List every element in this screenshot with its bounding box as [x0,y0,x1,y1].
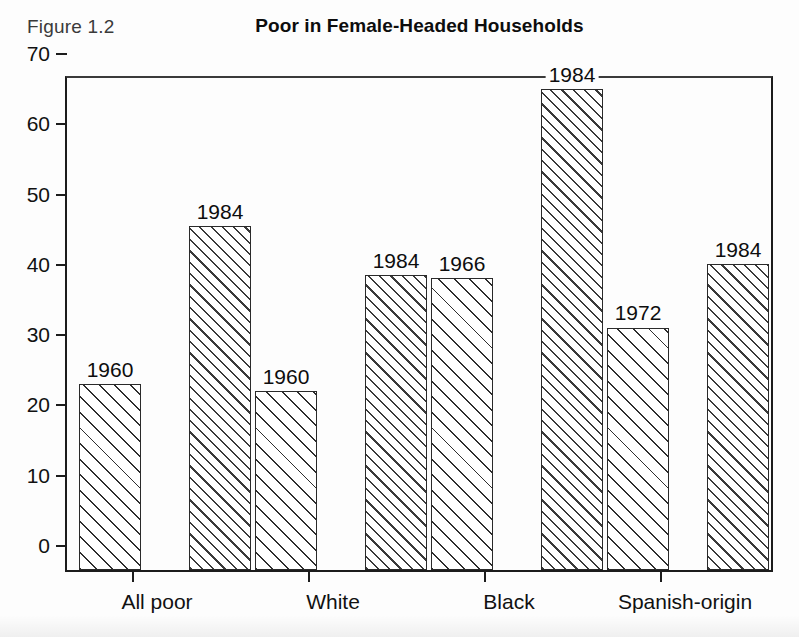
bar: 1960 [255,391,317,570]
y-axis-tick-mark [56,123,67,125]
y-axis-tick-label: 70 [16,42,50,66]
y-axis-tick: 30 [16,323,67,347]
bar: 1972 [607,328,669,570]
y-axis-tick: 50 [16,183,67,207]
bar: 1984 [541,89,603,570]
y-axis-tick-mark [56,475,67,477]
x-axis-category-label: White [306,590,360,614]
bar-value-label: 1960 [260,366,313,388]
bar-value-label: 1972 [612,302,665,324]
x-axis-category-label: Spanish-origin [618,590,752,614]
y-axis-tick: 0 [16,534,67,558]
y-axis-tick-mark [56,545,67,547]
y-axis-tick-mark [56,334,67,336]
bar: 1984 [189,226,251,570]
x-axis-tick [132,570,134,582]
y-axis-tick: 60 [16,112,67,136]
bar: 1960 [79,384,141,570]
bar-value-label: 1984 [712,239,765,261]
y-axis-tick: 10 [16,464,67,488]
y-axis-tick-mark [56,404,67,406]
bar-value-label: 1960 [84,359,137,381]
y-axis-tick: 20 [16,393,67,417]
x-axis-category-label: All poor [121,590,192,614]
scan-edge-shading [0,615,799,637]
bar: 1984 [365,275,427,570]
y-axis-tick-mark [56,194,67,196]
y-axis-tick: 70 [16,42,67,66]
y-axis-tick-label: 20 [16,393,50,417]
plot-area: 010203040506070 All poorWhiteBlackSpanis… [65,76,773,572]
y-axis-tick-label: 10 [16,464,50,488]
y-axis-tick: 40 [16,253,67,277]
bar-value-label: 1984 [194,201,247,223]
bar-value-label: 1984 [546,64,599,86]
x-axis-tick [484,570,486,582]
chart-title: Poor in Female-Headed Households [0,15,799,37]
x-axis-tick [660,570,662,582]
y-axis-tick-mark [56,53,67,55]
bar-value-label: 1966 [436,253,489,275]
y-axis-tick-label: 40 [16,253,50,277]
y-axis-tick-label: 0 [16,534,50,558]
y-axis-tick-label: 60 [16,112,50,136]
y-axis-tick-label: 30 [16,323,50,347]
bar-value-label: 1984 [370,250,423,272]
bar: 1966 [431,278,493,570]
x-axis-category-label: Black [483,590,534,614]
x-axis-tick [308,570,310,582]
y-axis-tick-mark [56,264,67,266]
bar: 1984 [707,264,769,570]
y-axis-tick-label: 50 [16,183,50,207]
figure-container: Figure 1.2 Poor in Female-Headed Househo… [0,0,799,637]
